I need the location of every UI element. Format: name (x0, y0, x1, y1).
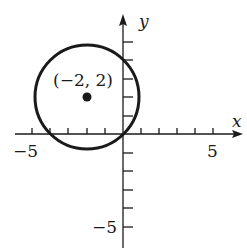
y-axis-label: y (138, 11, 149, 31)
x-tick-label-5: 5 (207, 141, 218, 161)
x-axis-label: x (232, 111, 242, 131)
center-point (83, 93, 92, 102)
y-tick-label-neg5: −5 (92, 217, 117, 237)
center-point-label: (−2, 2) (53, 70, 113, 90)
x-tick-label-neg5: −5 (13, 141, 38, 161)
coordinate-plane: (−2, 2) x y −5 5 −5 (0, 0, 247, 250)
